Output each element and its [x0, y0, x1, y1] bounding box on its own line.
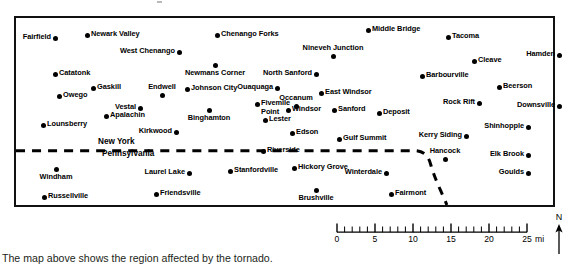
town-label: Winterdale	[345, 168, 382, 176]
town-dot-icon	[104, 114, 109, 119]
town-dot-icon	[526, 153, 531, 158]
town-label: Fairfield	[23, 33, 51, 41]
town-label: Newark Valley	[91, 30, 140, 38]
state-label-pennsylvania: Pennsylvania	[102, 149, 154, 158]
town-dot-icon	[526, 125, 531, 130]
town-label: Riverside	[267, 146, 300, 154]
town-dot-icon	[174, 130, 179, 135]
town-label: Elk Brook	[490, 150, 524, 158]
town-label: Deposit	[383, 108, 410, 116]
town-label: Fairmont	[395, 189, 426, 197]
town-label: Apalachin	[110, 111, 145, 119]
town-dot-icon	[275, 86, 280, 91]
town-label: Lester	[269, 115, 291, 123]
scale-tick-label: 15	[446, 234, 456, 244]
town-label: Hamden	[526, 50, 555, 58]
town-label: Nineveh Junction	[303, 44, 364, 52]
town-label: Endwell	[148, 83, 176, 91]
town-label: Shinhopple	[484, 122, 524, 130]
town-dot-icon	[286, 108, 291, 113]
town-dot-icon	[557, 53, 562, 58]
town-dot-icon	[497, 85, 502, 90]
town-dot-icon	[91, 86, 96, 91]
town-dot-icon	[377, 111, 382, 116]
map-figure: New York Pennsylvania FairfieldNewark Va…	[0, 0, 576, 272]
town-label: Johnson City	[191, 84, 237, 92]
town-label: Chenango Forks	[221, 30, 279, 38]
town-label: East Windsor	[325, 88, 372, 96]
compass-north: N	[548, 212, 570, 256]
map-frame: New York Pennsylvania FairfieldNewark Va…	[14, 16, 555, 207]
town-label: Hancock	[430, 147, 460, 155]
town-label: West Chenango	[120, 47, 175, 55]
town-dot-icon	[477, 101, 482, 106]
town-label: Rock Rift	[443, 98, 475, 106]
town-dot-icon	[332, 108, 337, 113]
town-label: Hickory Grove	[298, 163, 348, 171]
town-label: Brushville	[298, 194, 333, 202]
town-label: Friendsville	[160, 189, 200, 197]
town-dot-icon	[263, 118, 268, 123]
town-label: Russellville	[48, 192, 88, 200]
town-dot-icon	[366, 28, 371, 33]
town-dot-icon	[446, 35, 451, 40]
town-label: Edson	[296, 128, 318, 136]
town-label: Catatonk	[59, 69, 90, 77]
state-label-new-york: New York	[98, 137, 135, 146]
town-label: Gaskill	[97, 83, 121, 91]
town-label: Beerson	[503, 82, 532, 90]
town-dot-icon	[420, 74, 425, 79]
town-label: Tacoma	[452, 32, 479, 40]
scale-tick-label: 0	[335, 234, 340, 244]
town-dot-icon	[160, 93, 165, 98]
town-label: North Sanford	[263, 69, 312, 77]
town-dot-icon	[314, 72, 319, 77]
town-dot-icon	[389, 192, 394, 197]
town-dot-icon	[215, 33, 220, 38]
town-dot-icon	[187, 171, 192, 176]
town-label: Kerry Siding	[419, 131, 462, 139]
town-dot-icon	[53, 72, 58, 77]
town-dot-icon	[255, 102, 260, 107]
town-dot-icon	[261, 149, 266, 154]
scale-unit-label: mi	[535, 234, 544, 244]
town-label: Lounsberry	[47, 120, 87, 128]
town-label: Ouaquaga	[237, 83, 273, 91]
town-dot-icon	[228, 169, 233, 174]
north-arrow-icon	[548, 223, 570, 256]
scale-tick-label: 20	[484, 234, 494, 244]
town-dot-icon	[526, 171, 531, 176]
town-label: Kirkwood	[139, 127, 172, 135]
town-dot-icon	[472, 59, 477, 64]
town-dot-icon	[154, 192, 159, 197]
town-dot-icon	[41, 123, 46, 128]
town-label: Newmans Corner	[185, 69, 245, 77]
town-dot-icon	[384, 171, 389, 176]
town-dot-icon	[337, 137, 342, 142]
north-label: N	[548, 212, 570, 222]
scale-bar-ticks	[336, 222, 528, 234]
town-label: Windsor	[292, 105, 321, 113]
town-label: Owego	[63, 91, 87, 99]
town-label: Middle Bridge	[372, 25, 420, 33]
scale-tick-label: 25	[522, 234, 532, 244]
town-label: Binghamton	[188, 114, 231, 122]
town-dot-icon	[319, 91, 324, 96]
town-label: Barbourville	[426, 71, 469, 79]
town-dot-icon	[464, 134, 469, 139]
town-label: Gulf Summit	[343, 134, 386, 142]
town-dot-icon	[443, 157, 448, 162]
town-label: Laurel Lake	[144, 168, 185, 176]
town-dot-icon	[57, 94, 62, 99]
town-label: Stanfordville	[234, 166, 278, 174]
town-label: Cleave	[478, 56, 502, 64]
town-label: Goulds	[499, 168, 524, 176]
town-label: Downsville	[517, 101, 555, 109]
town-label: Windham	[40, 173, 73, 181]
town-dot-icon	[185, 87, 190, 92]
town-dot-icon	[42, 195, 47, 200]
town-dot-icon	[85, 33, 90, 38]
town-dot-icon	[331, 54, 336, 59]
town-dot-icon	[557, 104, 562, 109]
town-dot-icon	[177, 50, 182, 55]
